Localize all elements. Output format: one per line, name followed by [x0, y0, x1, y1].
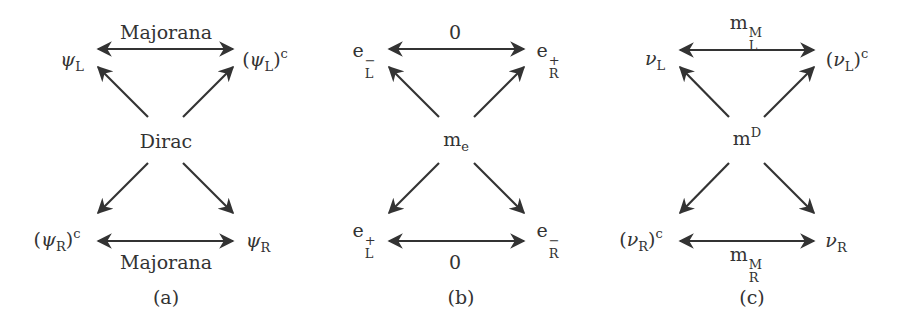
node-base: ν: [645, 47, 657, 69]
arrow-a-to-top-left: [98, 67, 148, 117]
node-sub: L: [845, 59, 854, 74]
arrow-c-to-bottom-left: [680, 163, 729, 213]
center-sup: D: [751, 125, 761, 140]
node-sub: L: [656, 58, 665, 73]
edge-label-a-top: Majorana: [120, 23, 212, 42]
node-psi-R-conjugate: (ψR)c: [34, 227, 81, 253]
node-scripts: −R: [549, 234, 560, 260]
center-sub: e: [461, 139, 469, 154]
edge-label-c-bottom: mMR: [730, 245, 762, 284]
node-sub: L: [365, 247, 376, 260]
node-sup: c: [861, 46, 868, 61]
node-base: ψ: [246, 229, 261, 251]
edge-label-a-bottom: Majorana: [120, 253, 212, 272]
caption-c: (c): [739, 288, 764, 307]
edge-label-b-bottom: 0: [449, 253, 461, 272]
arrow-layer: [0, 0, 907, 323]
arrow-c-to-bottom-right: [764, 163, 814, 213]
node-sub: R: [261, 240, 271, 255]
caption-a: (a): [153, 288, 179, 307]
arrow-b-to-bottom-left: [389, 163, 439, 213]
edge-label-c-top: mML: [730, 13, 762, 52]
node-sub: R: [549, 247, 560, 260]
node-nu-R-conjugate: (νR)c: [619, 227, 662, 253]
node-psi-R: ψR: [246, 231, 271, 254]
node-sub: L: [264, 59, 273, 74]
node-psi-L-conjugate: (ψL)c: [242, 47, 288, 73]
node-base: ν: [627, 228, 639, 250]
node-base: e: [352, 219, 363, 241]
center-dirac-mass: mD: [733, 126, 761, 148]
node-base: e: [536, 219, 547, 241]
node-base: e: [536, 39, 547, 61]
center-base: m: [443, 128, 461, 150]
node-base: e: [352, 39, 363, 61]
node-nu-R: νR: [825, 231, 846, 254]
node-base: ν: [833, 48, 845, 70]
node-sub: R: [56, 239, 66, 254]
node-e-minus-R: e−R: [536, 221, 559, 260]
node-sub: L: [75, 59, 84, 74]
edge-label-b-top: 0: [449, 23, 461, 42]
arrow-a-to-top-right: [183, 67, 233, 117]
label-sub: R: [749, 271, 762, 284]
node-base: ψ: [250, 48, 265, 70]
center-electron-mass: me: [443, 130, 469, 153]
arrow-b-to-top-left: [389, 67, 439, 117]
label-base: m: [730, 243, 748, 265]
label-scripts: MR: [749, 258, 762, 284]
node-sub: L: [365, 67, 376, 80]
node-sub: R: [638, 239, 648, 254]
center-dirac: Dirac: [140, 132, 192, 151]
label-base: m: [730, 11, 748, 33]
arrow-a-to-bottom-left: [98, 163, 148, 213]
node-base: ν: [825, 229, 837, 251]
node-nu-L-conjugate: (νL)c: [826, 47, 868, 73]
arrow-c-to-top-left: [680, 67, 729, 117]
node-scripts: −L: [365, 54, 376, 80]
node-nu-L: νL: [645, 49, 665, 72]
caption-b: (b): [448, 288, 475, 307]
node-e-plus-R: e+R: [536, 41, 559, 80]
node-e-plus-L: e+L: [352, 221, 375, 260]
node-base: ψ: [41, 228, 56, 250]
node-scripts: +R: [549, 54, 560, 80]
node-sup: c: [655, 226, 662, 241]
node-e-minus-L: e−L: [352, 41, 375, 80]
arrow-b-to-bottom-right: [474, 163, 524, 213]
label-scripts: ML: [749, 26, 762, 52]
node-sup: c: [281, 46, 288, 61]
node-sub: R: [837, 240, 847, 255]
node-sup: c: [73, 226, 80, 241]
node-scripts: +L: [365, 234, 376, 260]
label-sub: L: [749, 39, 762, 52]
arrow-c-to-top-right: [764, 67, 814, 117]
arrow-a-to-bottom-right: [183, 163, 233, 213]
center-base: m: [733, 127, 751, 149]
node-psi-L: ψL: [60, 50, 84, 73]
node-sub: R: [549, 67, 560, 80]
arrow-b-to-top-right: [474, 67, 524, 117]
node-base: ψ: [60, 48, 75, 70]
